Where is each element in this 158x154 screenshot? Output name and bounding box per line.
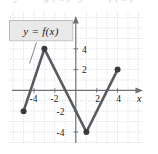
- y-tick-label: -4: [57, 128, 65, 138]
- callout-leader-line: [30, 43, 37, 64]
- x-axis-label: x: [136, 93, 142, 104]
- y-tick-label: -2: [57, 107, 65, 117]
- x-tick-label: 4: [116, 94, 121, 104]
- figure-graph-of-f: y = g(x) y = f(x): [0, 0, 158, 154]
- cut-off-text: y = g(x) y = f(x): [14, 0, 136, 3]
- cut-off-text-above: y = g(x) y = f(x): [0, 0, 158, 9]
- data-point: [115, 67, 121, 73]
- y-axis-arrowhead: [73, 16, 79, 24]
- x-tick-label: -2: [51, 94, 59, 104]
- y-tick-label: 4: [82, 45, 87, 55]
- x-tick-label: 2: [95, 94, 100, 104]
- x-tick-label: -4: [30, 94, 38, 104]
- data-point: [41, 46, 47, 52]
- data-point: [21, 108, 27, 114]
- function-label-text: y = f(x): [23, 25, 58, 37]
- data-point: [83, 129, 89, 135]
- y-tick-label: 2: [82, 65, 87, 75]
- function-label-callout: y = f(x): [9, 20, 73, 41]
